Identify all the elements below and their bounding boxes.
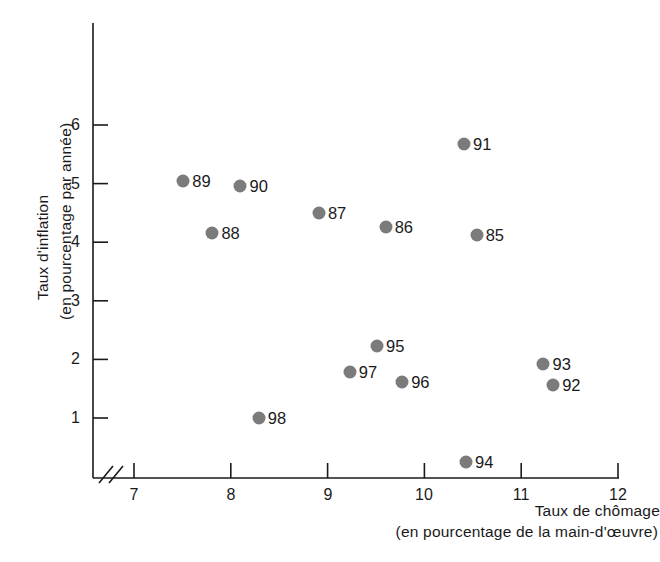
y-tick-label-3: 3 [58, 293, 80, 309]
data-point-86[interactable] [379, 220, 392, 233]
data-point-91[interactable] [458, 137, 471, 150]
y-tick-label-5: 5 [58, 176, 80, 192]
y-tick-label-2: 2 [58, 351, 80, 367]
y-tick-label-6: 6 [58, 117, 80, 133]
data-point-label-85: 85 [486, 227, 504, 244]
y-axis-ticks [93, 125, 108, 418]
scatter-plot-figure: Taux d'inflation (en pourcentage par ann… [0, 0, 660, 562]
data-point-96[interactable] [396, 376, 409, 389]
data-point-89[interactable] [177, 175, 190, 188]
data-point-85[interactable] [470, 229, 483, 242]
data-point-95[interactable] [370, 339, 383, 352]
data-point-94[interactable] [460, 455, 473, 468]
data-point-label-97: 97 [359, 364, 377, 381]
data-point-label-98: 98 [268, 410, 286, 427]
data-point-92[interactable] [547, 379, 560, 392]
data-point-label-88: 88 [221, 225, 239, 242]
plot-axes [0, 0, 660, 562]
data-point-label-90: 90 [249, 178, 267, 195]
x-axis-label-line2: (en pourcentage de la main-d'œuvre) [210, 521, 660, 542]
x-axis-label-line1: Taux de chômage [210, 500, 660, 521]
data-point-label-95: 95 [386, 338, 404, 355]
data-point-label-92: 92 [562, 377, 580, 394]
data-point-88[interactable] [206, 226, 219, 239]
data-point-label-87: 87 [328, 205, 346, 222]
y-tick-label-1: 1 [58, 410, 80, 426]
x-axis-label: Taux de chômage (en pourcentage de la ma… [210, 500, 660, 543]
data-point-label-94: 94 [475, 454, 493, 471]
data-point-90[interactable] [234, 179, 247, 192]
data-point-87[interactable] [312, 206, 325, 219]
x-tick-label-7: 7 [122, 487, 146, 503]
data-point-label-91: 91 [473, 136, 491, 153]
data-point-98[interactable] [252, 412, 265, 425]
data-point-93[interactable] [537, 358, 550, 371]
data-point-label-89: 89 [192, 173, 210, 190]
data-point-label-96: 96 [411, 374, 429, 391]
y-tick-label-4: 4 [58, 234, 80, 250]
data-point-97[interactable] [343, 366, 356, 379]
data-point-label-86: 86 [395, 219, 413, 236]
data-point-label-93: 93 [552, 356, 570, 373]
x-axis-ticks [134, 463, 618, 478]
axis-break-icon [99, 466, 123, 483]
